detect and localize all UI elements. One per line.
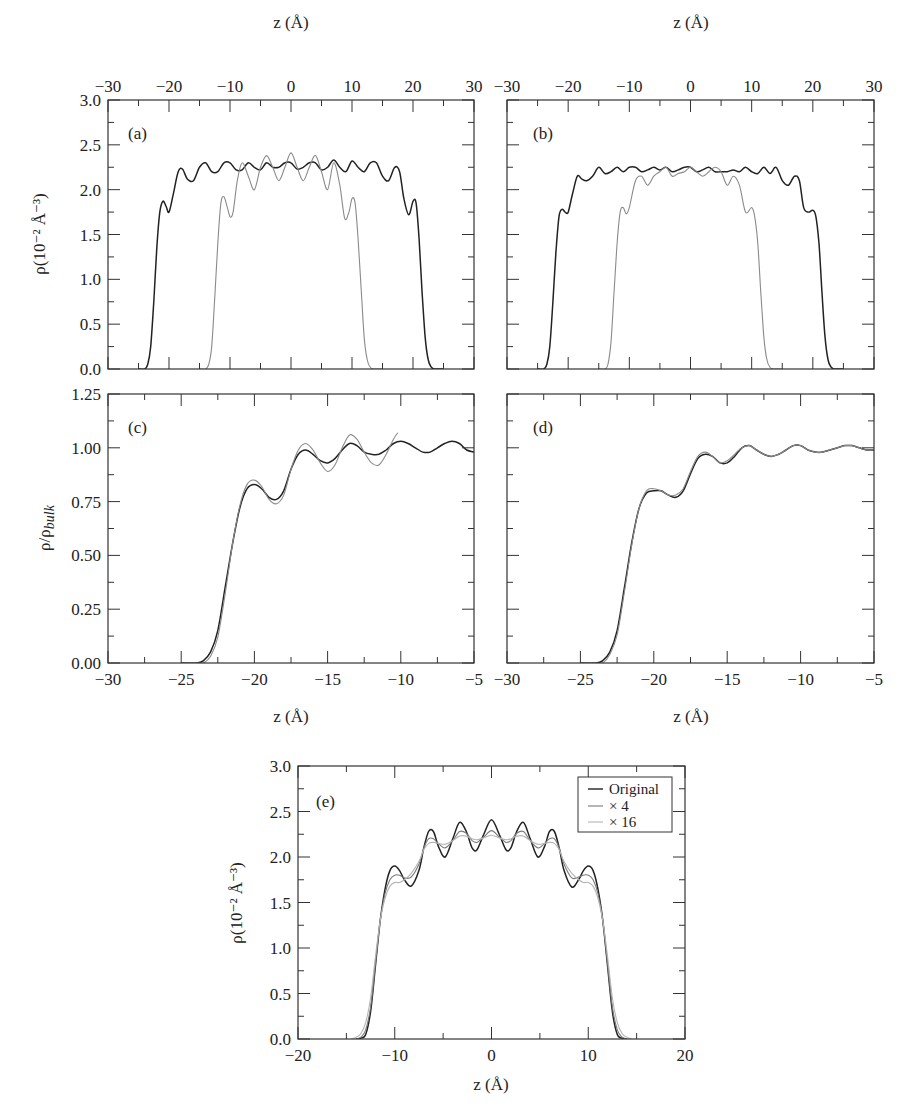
x-tick-label: 0	[287, 77, 296, 96]
panel-b: z (Å) (b) −30−20−100102030	[494, 13, 883, 369]
x-tick-label: 20	[405, 77, 422, 96]
x-tick-label: 10	[580, 1046, 597, 1065]
legend-label-x16: × 16	[609, 814, 637, 830]
series-group	[538, 167, 844, 370]
x-tick-label: −10	[616, 77, 643, 96]
series-line	[356, 831, 627, 1039]
series-line	[356, 820, 627, 1039]
axes-d: −30−25−20−15−10−5	[494, 394, 883, 689]
panel-b-xlabel: z (Å)	[673, 13, 708, 32]
x-tick-label: −30	[494, 77, 521, 96]
x-tick-label: −20	[555, 77, 582, 96]
series-line	[580, 445, 874, 663]
x-tick-label: −20	[641, 670, 668, 689]
y-tick-label: 0.5	[270, 985, 291, 1004]
y-tick-label: 0.5	[80, 315, 101, 334]
x-tick-label: −25	[567, 670, 594, 689]
y-tick-label: 1.25	[71, 385, 101, 404]
y-tick-label: 2.5	[270, 803, 291, 822]
y-tick-label: 2.0	[80, 181, 101, 200]
x-tick-label: −20	[241, 670, 268, 689]
x-tick-label: −10	[787, 670, 814, 689]
x-tick-label: 30	[466, 77, 483, 96]
panel-b-tag: (b)	[533, 124, 553, 143]
y-tick-label: 0.0	[80, 360, 101, 379]
panel-d-tag: (d)	[533, 418, 553, 437]
y-tick-label: 0.50	[71, 546, 101, 565]
legend: Original × 4 × 16	[578, 777, 672, 832]
panel-e-xlabel: z (Å)	[473, 1075, 508, 1094]
series-line	[599, 167, 783, 369]
panel-c: z (Å) ρ/ρbulk (c) −30−25−20−15−10−50.000…	[35, 385, 483, 726]
panel-e-ylabel: ρ(10⁻² Å⁻³)	[227, 862, 246, 943]
y-tick-label: 1.0	[270, 939, 291, 958]
panel-e: z (Å) ρ(10⁻² Å⁻³) (e) −20−10010200.00.51…	[227, 757, 694, 1094]
axes-a: −30−20−1001020300.00.51.01.52.02.53.0	[80, 77, 483, 379]
axes-frame	[108, 394, 474, 663]
series-line	[181, 433, 398, 664]
y-tick-label: 1.5	[80, 226, 101, 245]
series-line	[139, 160, 444, 369]
x-tick-label: −20	[156, 77, 183, 96]
x-tick-label: −30	[494, 670, 521, 689]
panel-e-tag: (e)	[316, 792, 335, 811]
panel-c-ylabel: ρ/ρbulk	[35, 504, 57, 551]
panel-a: z (Å) ρ(10⁻² Å⁻³) (a) −30−20−1001020300.…	[30, 13, 483, 379]
x-tick-label: −5	[465, 670, 483, 689]
panel-a-ylabel: ρ(10⁻² Å⁻³)	[30, 193, 49, 274]
series-group	[580, 445, 874, 664]
axes-frame	[507, 394, 874, 663]
panel-d: z (Å) (d) −30−25−20−15−10−5	[494, 394, 883, 726]
panel-c-tag: (c)	[128, 418, 147, 437]
series-line	[538, 167, 844, 370]
series-group	[351, 820, 632, 1039]
x-tick-label: −10	[388, 670, 415, 689]
y-tick-label: 1.00	[71, 439, 101, 458]
y-tick-label: 0.75	[71, 493, 101, 512]
x-tick-label: −15	[314, 670, 341, 689]
x-tick-label: −10	[381, 1046, 408, 1065]
x-tick-label: −10	[217, 77, 244, 96]
x-tick-label: −25	[168, 670, 195, 689]
x-tick-label: 10	[743, 77, 760, 96]
y-tick-label: 3.0	[80, 91, 101, 110]
x-tick-label: −5	[865, 670, 883, 689]
y-tick-label: 1.0	[80, 270, 101, 289]
x-tick-label: 20	[804, 77, 821, 96]
x-tick-label: −15	[714, 670, 741, 689]
axes-b: −30−20−100102030	[494, 77, 883, 369]
series-line	[181, 441, 474, 663]
y-tick-label: 0.00	[71, 654, 101, 673]
x-tick-label: 0	[686, 77, 695, 96]
x-tick-label: 20	[677, 1046, 694, 1065]
y-tick-label: 0.0	[270, 1030, 291, 1049]
series-line	[580, 445, 874, 664]
panel-c-xlabel: z (Å)	[273, 707, 308, 726]
panel-a-tag: (a)	[128, 124, 147, 143]
panel-d-xlabel: z (Å)	[673, 707, 708, 726]
panel-a-xlabel: z (Å)	[273, 13, 308, 32]
y-tick-label: 2.0	[270, 848, 291, 867]
x-tick-label: 30	[866, 77, 883, 96]
y-tick-label: 2.5	[80, 136, 101, 155]
series-group	[181, 433, 474, 664]
series-line	[200, 153, 383, 369]
y-tick-label: 3.0	[270, 757, 291, 776]
y-tick-label: 0.25	[71, 600, 101, 619]
legend-label-original: Original	[609, 781, 659, 797]
series-group	[139, 153, 444, 369]
x-tick-label: 0	[487, 1046, 496, 1065]
figure: z (Å) ρ(10⁻² Å⁻³) (a) −30−20−1001020300.…	[0, 0, 913, 1118]
x-tick-label: 10	[344, 77, 361, 96]
y-tick-label: 1.5	[270, 894, 291, 913]
legend-label-x4: × 4	[609, 798, 629, 814]
axes-frame	[507, 100, 874, 369]
